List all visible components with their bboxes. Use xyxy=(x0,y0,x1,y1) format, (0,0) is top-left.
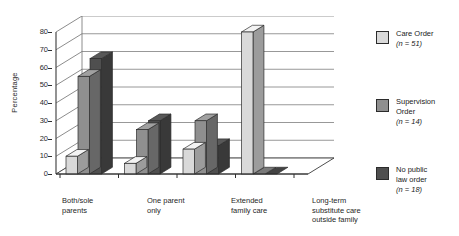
plot-svg xyxy=(48,16,358,186)
y-axis-tick-labels: 80706050403020100 xyxy=(22,0,48,236)
grid-wall xyxy=(56,16,332,32)
bar xyxy=(242,25,264,174)
plot-area xyxy=(48,16,358,186)
x-axis-category-label: Extended family care xyxy=(231,196,311,215)
legend-label: No public law order(n = 18) xyxy=(396,165,427,194)
y-axis-tick-label: 30 xyxy=(26,117,48,125)
legend-swatch xyxy=(376,31,389,44)
gridline-depth xyxy=(56,34,82,50)
legend-series-name: Supervision Order xyxy=(396,97,435,116)
y-axis-tick-label: 40 xyxy=(26,99,48,107)
legend-sample-size: (n = 51) xyxy=(396,39,422,48)
y-axis-tick-label: 80 xyxy=(26,28,48,36)
y-axis-tick-label: 70 xyxy=(26,46,48,54)
y-axis-tick-label: 10 xyxy=(26,152,48,160)
legend-label: Supervision Order(n = 14) xyxy=(396,97,435,126)
legend-sample-size: (n = 14) xyxy=(396,117,422,126)
bar xyxy=(183,142,205,174)
y-axis-tick-label: 20 xyxy=(26,135,48,143)
legend-swatch xyxy=(376,99,389,112)
y-axis-tick-label: 0 xyxy=(26,170,48,178)
legend-series-name: No public law order xyxy=(396,165,427,184)
gridline-depth xyxy=(56,52,82,68)
legend-sample-size: (n = 18) xyxy=(396,185,422,194)
y-axis-tick-label: 50 xyxy=(26,81,48,89)
bar-chart-figure: Percentage 80706050403020100 Both/sole p… xyxy=(0,0,459,236)
x-axis-category-label: Both/sole parents xyxy=(62,196,142,215)
x-axis-category-label: Long-term substitute care outside family xyxy=(312,196,392,225)
legend-swatch xyxy=(376,167,389,180)
x-axis-category-label: One parent only xyxy=(147,196,227,215)
y-axis-title: Percentage xyxy=(10,53,19,133)
y-axis-tick-label: 60 xyxy=(26,64,48,72)
legend-series-name: Care Order xyxy=(396,29,434,38)
legend-label: Care Order(n = 51) xyxy=(396,29,434,49)
